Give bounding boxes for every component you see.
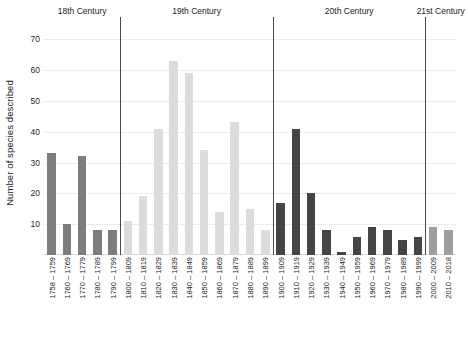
- x-tick-label: 1960 – 1969: [368, 257, 377, 299]
- bar-rect: [414, 237, 423, 255]
- x-tick-label: 1758 – 1759: [47, 257, 56, 299]
- bar-rect: [47, 153, 56, 255]
- x-tick-label: 2000 – 2009: [429, 257, 438, 299]
- species-description-bar-chart: Number of species described 102030405060…: [0, 0, 468, 340]
- bar-rect: [185, 73, 194, 255]
- bar-rect: [429, 227, 438, 255]
- x-tick-label: 1940 – 1949: [337, 257, 346, 299]
- century-label-18th-century: 18th Century: [58, 6, 107, 16]
- bar-rect: [124, 221, 133, 255]
- bar-19901999: [414, 30, 423, 255]
- bar-19801989: [398, 30, 407, 255]
- x-tick-label: 1970 – 1979: [383, 257, 392, 299]
- bar-18401849: [185, 30, 194, 255]
- x-tick-label: 1870 – 1879: [230, 257, 239, 299]
- bar-rect: [139, 196, 148, 255]
- x-tick-label: 1760 – 1769: [62, 257, 71, 299]
- bar-18801889: [246, 30, 255, 255]
- bar-18601869: [215, 30, 224, 255]
- bar-18701879: [230, 30, 239, 255]
- century-label-19th-century: 19th Century: [172, 6, 221, 16]
- bar-rect: [246, 209, 255, 255]
- bar-rect: [398, 240, 407, 255]
- bar-17901799: [108, 30, 117, 255]
- bar-20002009: [429, 30, 438, 255]
- bar-rect: [368, 227, 377, 255]
- bar-19201929: [307, 30, 316, 255]
- bar-19501959: [353, 30, 362, 255]
- x-tick-label: 1820 – 1829: [154, 257, 163, 299]
- x-tick-label: 1900 – 1909: [276, 257, 285, 299]
- bar-rect: [353, 237, 362, 255]
- y-axis-tick-40: 40: [31, 127, 40, 137]
- bar-rect: [444, 230, 453, 255]
- bar-19601969: [368, 30, 377, 255]
- bar-rect: [200, 150, 209, 255]
- divider-19th-century: [120, 17, 121, 255]
- bar-18301839: [169, 30, 178, 255]
- y-axis-label-text: Number of species described: [4, 80, 15, 206]
- x-tick-label: 1930 – 1939: [322, 257, 331, 299]
- x-tick-label: 1990 – 1999: [413, 257, 422, 299]
- x-tick-label: 1840 – 1849: [184, 257, 193, 299]
- bar-18501859: [200, 30, 209, 255]
- century-label-20th-century: 20th Century: [325, 6, 374, 16]
- y-axis-tick-10: 10: [31, 219, 40, 229]
- bar-18201829: [154, 30, 163, 255]
- bar-rect: [292, 129, 301, 255]
- y-axis-tick-20: 20: [31, 188, 40, 198]
- plot-area: 10203040506070 18th Century19th Century2…: [44, 30, 456, 255]
- divider-20th-century: [273, 17, 274, 255]
- divider-21st-century: [425, 17, 426, 255]
- bar-rect: [276, 203, 285, 255]
- bar-rect: [261, 230, 270, 255]
- century-label-21st-century: 21st Century: [417, 6, 465, 16]
- bar-rect: [230, 122, 239, 255]
- bar-rect: [78, 156, 87, 255]
- x-tick-label: 1830 – 1839: [169, 257, 178, 299]
- x-tick-label: 1850 – 1859: [200, 257, 209, 299]
- bar-rect: [93, 230, 102, 255]
- bar-rect: [337, 252, 346, 255]
- x-tick-label: 2010 – 2018: [444, 257, 453, 299]
- bar-series: [44, 30, 456, 255]
- x-tick-label: 1910 – 1919: [291, 257, 300, 299]
- bar-18101819: [139, 30, 148, 255]
- bar-19001909: [276, 30, 285, 255]
- y-axis-label: Number of species described: [2, 30, 16, 255]
- bar-19401949: [337, 30, 346, 255]
- x-tick-label: 1780 – 1789: [93, 257, 102, 299]
- bar-rect: [108, 230, 117, 255]
- bar-rect: [215, 212, 224, 255]
- x-tick-label: 1800 – 1809: [123, 257, 132, 299]
- x-axis-tick-labels: 1758 – 17591760 – 17691770 – 17791780 – …: [44, 257, 456, 337]
- x-tick-label: 1790 – 1799: [108, 257, 117, 299]
- bar-rect: [307, 193, 316, 255]
- bar-19701979: [383, 30, 392, 255]
- x-tick-label: 1890 – 1899: [261, 257, 270, 299]
- y-axis-tick-50: 50: [31, 96, 40, 106]
- y-axis-tick-60: 60: [31, 65, 40, 75]
- bar-rect: [169, 61, 178, 255]
- bar-17601769: [63, 30, 72, 255]
- bar-20102018: [444, 30, 453, 255]
- bar-rect: [383, 230, 392, 255]
- y-axis-tick-30: 30: [31, 158, 40, 168]
- bar-rect: [154, 129, 163, 255]
- bar-17801789: [93, 30, 102, 255]
- x-tick-label: 1920 – 1929: [307, 257, 316, 299]
- x-tick-label: 1810 – 1819: [139, 257, 148, 299]
- x-tick-label: 1950 – 1959: [352, 257, 361, 299]
- bar-19101919: [292, 30, 301, 255]
- x-tick-label: 1860 – 1869: [215, 257, 224, 299]
- bar-18901899: [261, 30, 270, 255]
- x-tick-label: 1980 – 1989: [398, 257, 407, 299]
- bar-17701779: [78, 30, 87, 255]
- bar-rect: [322, 230, 331, 255]
- x-tick-label: 1880 – 1889: [245, 257, 254, 299]
- y-axis-tick-70: 70: [31, 34, 40, 44]
- bar-19301939: [322, 30, 331, 255]
- bar-18001809: [124, 30, 133, 255]
- bar-17581759: [47, 30, 56, 255]
- x-tick-label: 1770 – 1779: [78, 257, 87, 299]
